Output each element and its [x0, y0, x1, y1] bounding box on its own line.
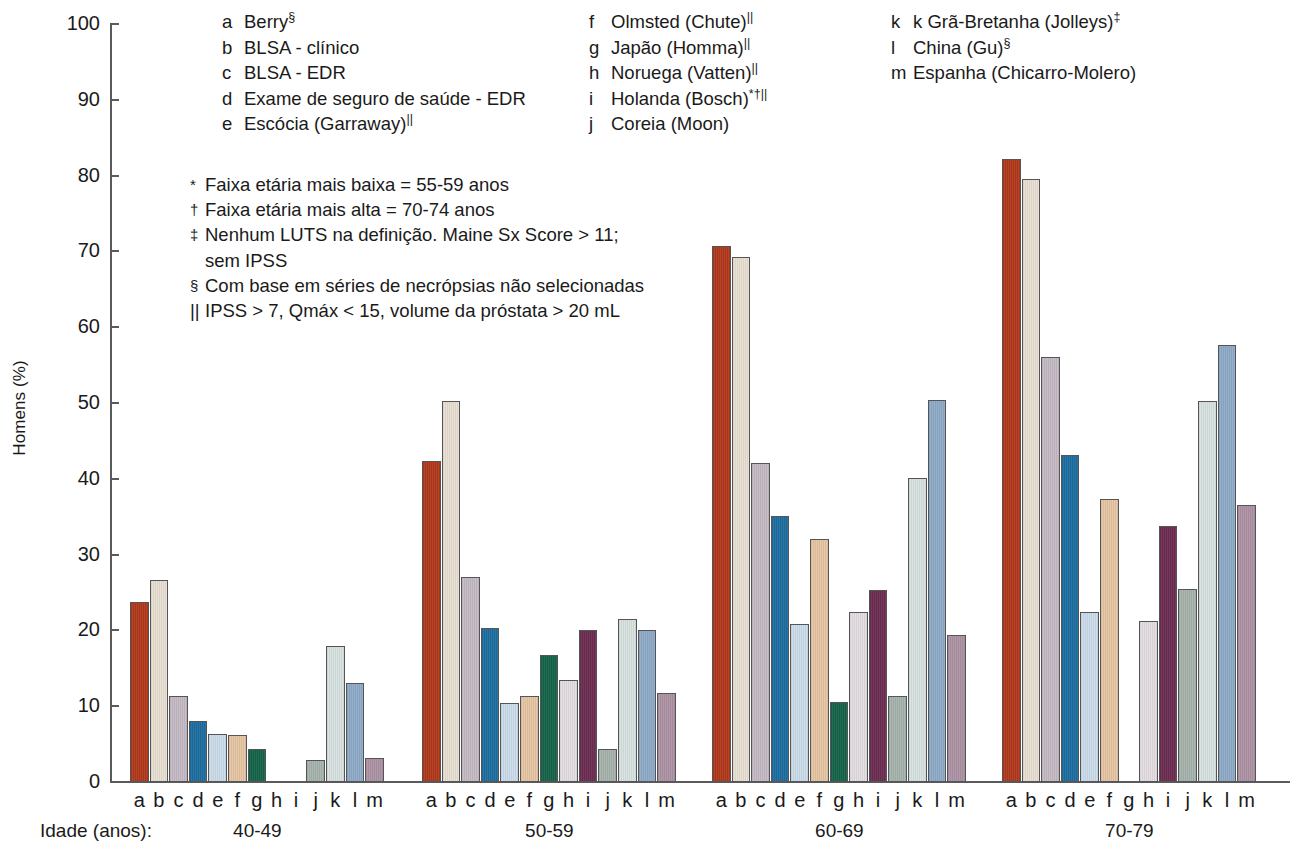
bar-40-49-j — [306, 760, 325, 782]
bar-texture — [811, 540, 828, 781]
bar-texture — [1101, 500, 1118, 781]
bar-70-79-a — [1002, 159, 1021, 782]
bar-60-69-k — [908, 478, 927, 782]
age-group-label-60-69: 60-69 — [794, 820, 884, 841]
bar-70-79-c — [1041, 357, 1060, 782]
bar-texture — [791, 625, 808, 781]
bar-50-59-i — [579, 630, 598, 782]
bar-40-49-f — [228, 735, 247, 782]
y-tick-label: 80 — [28, 165, 100, 185]
bar-50-59-l — [638, 630, 657, 782]
chart-figure: Homens (%) 0102030405060708090100 aBerry… — [0, 0, 1297, 846]
bar-50-59-b — [442, 401, 461, 782]
bar-texture — [190, 722, 207, 781]
bar-60-69-g — [830, 702, 849, 782]
bar-40-49-c — [169, 696, 188, 782]
bar-texture — [713, 247, 730, 781]
bar-texture — [521, 697, 538, 781]
bar-40-49-g — [248, 749, 267, 782]
bar-texture — [366, 759, 383, 781]
y-tick-label: 50 — [28, 392, 100, 412]
bar-40-49-k — [326, 646, 345, 782]
bar-50-59-m — [657, 693, 676, 782]
bar-60-69-c — [751, 463, 770, 782]
bar-texture — [1062, 456, 1079, 781]
y-tick-label: 30 — [28, 544, 100, 564]
bar-texture — [1199, 402, 1216, 781]
bar-60-69-j — [888, 696, 907, 782]
age-group-label-50-59: 50-59 — [504, 820, 594, 841]
bar-40-49-a — [130, 602, 149, 782]
bar-texture — [929, 401, 946, 781]
bar-texture — [599, 750, 616, 781]
bar-70-79-f — [1100, 499, 1119, 782]
y-tick-label: 70 — [28, 240, 100, 260]
bar-70-79-h — [1139, 621, 1158, 782]
bar-texture — [948, 636, 965, 781]
bar-60-69-l — [928, 400, 947, 782]
age-group-label-70-79: 70-79 — [1084, 820, 1174, 841]
bar-texture — [151, 581, 168, 781]
bar-50-59-k — [618, 619, 637, 782]
bar-texture — [229, 736, 246, 781]
bar-texture — [501, 704, 518, 781]
bar-texture — [423, 462, 440, 781]
bar-70-79-l — [1218, 345, 1237, 782]
bar-50-59-h — [559, 680, 578, 782]
bar-texture — [170, 697, 187, 781]
x-tick-label-70-79-m: m — [1235, 789, 1259, 811]
y-axis-title: Homens (%) — [10, 318, 30, 498]
legend-item-superscript: § — [288, 10, 295, 24]
bar-texture — [733, 258, 750, 781]
y-tick-label: 100 — [28, 13, 100, 33]
bar-texture — [752, 464, 769, 781]
bar-70-79-m — [1237, 505, 1256, 782]
bar-texture — [1160, 527, 1177, 781]
bar-70-79-d — [1061, 455, 1080, 782]
bar-texture — [1179, 590, 1196, 781]
bar-60-69-a — [712, 246, 731, 782]
legend-item-superscript: ‡ — [1113, 10, 1120, 24]
bar-texture — [307, 761, 324, 781]
bar-60-69-d — [771, 516, 790, 782]
x-axis-title: Idade (anos): — [40, 820, 152, 841]
bar-40-49-m — [365, 758, 384, 782]
bar-texture — [327, 647, 344, 781]
bar-70-79-k — [1198, 401, 1217, 782]
bar-texture — [1003, 160, 1020, 781]
bar-60-69-f — [810, 539, 829, 782]
bar-50-59-e — [500, 703, 519, 782]
bar-texture — [658, 694, 675, 781]
y-tick-label: 20 — [28, 619, 100, 639]
bar-40-49-b — [150, 580, 169, 782]
y-tick-label: 40 — [28, 468, 100, 488]
bar-50-59-c — [461, 577, 480, 782]
bar-70-79-e — [1080, 612, 1099, 782]
bar-70-79-j — [1178, 589, 1197, 782]
bar-texture — [560, 681, 577, 781]
bar-texture — [249, 750, 266, 781]
y-tick-label: 90 — [28, 89, 100, 109]
bar-40-49-e — [208, 734, 227, 783]
x-tick-label-40-49-m: m — [363, 789, 387, 811]
bar-texture — [462, 578, 479, 781]
bar-40-49-l — [346, 683, 365, 782]
x-tick-label-60-69-m: m — [945, 789, 969, 811]
age-group-label-40-49: 40-49 — [212, 820, 302, 841]
bar-60-69-i — [869, 590, 888, 782]
plot-area — [112, 24, 1290, 782]
bar-texture — [639, 631, 656, 781]
bar-texture — [347, 684, 364, 781]
bar-texture — [443, 402, 460, 781]
bar-texture — [870, 591, 887, 781]
bar-texture — [1042, 358, 1059, 781]
bar-60-69-m — [947, 635, 966, 782]
bar-40-49-d — [189, 721, 208, 782]
bar-texture — [909, 479, 926, 781]
bar-60-69-h — [849, 612, 868, 782]
bar-50-59-j — [598, 749, 617, 782]
bar-texture — [772, 517, 789, 781]
bar-texture — [541, 656, 558, 781]
bar-texture — [1140, 622, 1157, 781]
bar-texture — [1023, 180, 1040, 781]
